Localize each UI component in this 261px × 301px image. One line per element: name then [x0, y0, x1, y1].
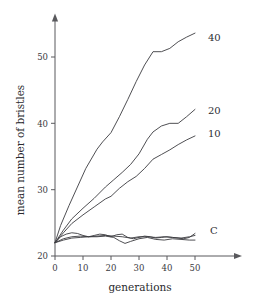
series-line-20	[55, 109, 195, 242]
series-label-10: 10	[208, 128, 221, 139]
x-tick-label-30: 30	[134, 263, 145, 273]
x-tick-label-40: 40	[162, 263, 173, 273]
y-tick-label-30: 30	[37, 185, 48, 195]
x-axis-title: generations	[108, 281, 171, 293]
y-axis-arrowhead	[52, 14, 58, 22]
y-tick-label-20: 20	[37, 251, 48, 261]
x-tick-label-20: 20	[106, 263, 117, 273]
x-tick-label-50: 50	[190, 263, 201, 273]
x-tick-label-10: 10	[78, 263, 89, 273]
series-line-40	[55, 33, 195, 243]
series-label-40: 40	[208, 32, 221, 43]
x-tick-label-0: 0	[52, 263, 57, 273]
x-axis-ticks	[55, 256, 195, 260]
series-group	[55, 33, 195, 243]
series-label-20: 20	[208, 105, 221, 116]
y-axis-ticks	[51, 57, 55, 256]
y-axis	[52, 14, 58, 257]
y-axis-title: mean number of bristles	[14, 85, 26, 216]
y-tick-label-40: 40	[37, 119, 48, 129]
bristle-selection-line-chart: 20 30 40 50 0 10 20 30 40 50 generations…	[0, 0, 261, 301]
chart-canvas: 20 30 40 50 0 10 20 30 40 50 generations…	[0, 0, 261, 301]
y-tick-label-50: 50	[37, 52, 48, 62]
series-labels: 40 20 10 C	[208, 32, 221, 236]
x-axis-arrowhead	[234, 253, 242, 259]
series-label-control: C	[210, 225, 218, 236]
